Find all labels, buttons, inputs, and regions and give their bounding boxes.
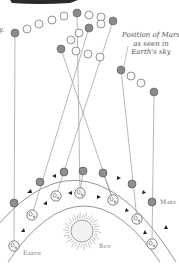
mars-label: Mars	[160, 198, 176, 205]
sun-icon	[63, 212, 101, 250]
path-dot	[84, 50, 92, 58]
path-dot	[48, 16, 56, 24]
sun-label: Sun	[99, 242, 111, 249]
mars-planet-icon	[60, 168, 68, 176]
earth-globe-icon	[27, 210, 37, 220]
path-dot	[67, 36, 75, 44]
mars-planet-icon	[99, 169, 107, 177]
mars-planet-icon	[128, 180, 136, 188]
path-dot	[72, 47, 80, 55]
observed-mars-dot	[117, 66, 125, 74]
path-dot	[75, 29, 83, 37]
left-edge-text-fragment: y.	[0, 26, 4, 34]
mars-planet-icon	[10, 199, 18, 207]
path-dot	[60, 12, 68, 20]
path-dot	[127, 72, 135, 80]
observed-mars-dot	[57, 45, 65, 53]
mars-planet-icon	[148, 198, 156, 206]
path-dot	[85, 11, 93, 19]
caption-line-1: Position of Mars	[120, 31, 179, 40]
mars-position-caption: Position of Mars as seen in Earth's sky	[120, 31, 179, 57]
path-dot	[97, 20, 105, 28]
caption-line-2: as seen in	[120, 40, 179, 49]
earth-globe-icon	[132, 214, 142, 224]
mars-position-dots	[10, 167, 156, 207]
path-dot	[137, 79, 145, 87]
observed-mars-dot	[73, 9, 81, 17]
observed-mars-dot	[85, 24, 93, 32]
earth-label: Earth	[23, 249, 41, 256]
earth-globe-icon	[9, 241, 19, 251]
earth-globe-icon	[51, 191, 61, 201]
observed-mars-dot	[11, 29, 19, 37]
path-dot	[23, 25, 31, 33]
earth-globe-icon	[108, 195, 118, 205]
mars-orbit-arrows	[27, 174, 168, 229]
top-brushstroke	[10, 0, 78, 4]
earth-globe-icon	[75, 188, 85, 198]
mars-planet-icon	[36, 178, 44, 186]
earth-globe-icon	[147, 239, 157, 249]
observed-mars-dot	[109, 17, 117, 25]
path-dot	[96, 53, 104, 61]
caption-line-3: Earth's sky	[120, 48, 179, 57]
path-dot	[35, 20, 43, 28]
observed-mars-dot	[150, 88, 158, 96]
mars-planet-icon	[79, 167, 87, 175]
